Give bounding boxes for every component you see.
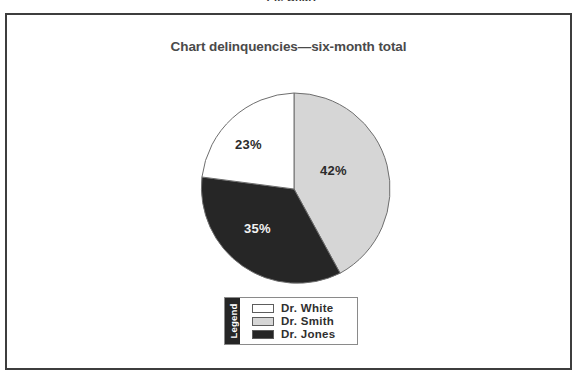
pie-slice-label-jones: 35% [244,221,271,236]
figure-frame: Chart delinquencies—six-month total 42% … [5,13,572,370]
pie-chart: 42% 35% 23% [194,75,399,280]
legend-entries: Dr. White Dr. Smith Dr. Jones [240,298,357,344]
figure-caption: Pie Chart [0,0,583,1]
pie-slice-label-smith: 42% [320,163,347,178]
pie-circle [197,92,391,286]
legend-swatch-white [252,304,274,313]
chart-title: Chart delinquencies—six-month total [7,39,570,54]
legend-label-smith: Dr. Smith [281,315,334,327]
legend-item-white[interactable]: Dr. White [252,302,357,314]
legend-swatch-jones [252,330,274,339]
legend-swatch-smith [252,317,274,326]
legend: Legend Dr. White Dr. Smith Dr. Jones [224,297,358,345]
legend-label-jones: Dr. Jones [281,328,335,340]
legend-tab: Legend [225,298,240,344]
legend-label-white: Dr. White [281,302,334,314]
legend-item-smith[interactable]: Dr. Smith [252,315,357,327]
pie-slice-label-white: 23% [235,137,262,152]
legend-item-jones[interactable]: Dr. Jones [252,328,357,340]
legend-tab-label: Legend [227,304,238,339]
